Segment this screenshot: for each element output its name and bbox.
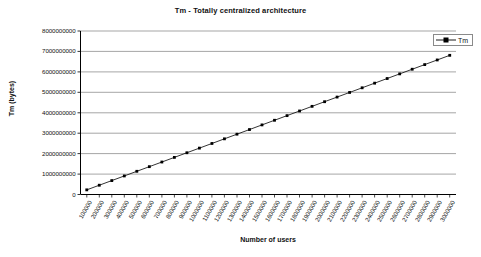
legend-line-marker-icon [436, 36, 456, 44]
data-point-marker [173, 156, 176, 159]
y-tick-label: 2000000000 [0, 150, 76, 157]
data-point-marker [286, 114, 289, 117]
y-tick-label: 1000000000 [0, 170, 76, 177]
y-tick-label: 0 [0, 191, 76, 198]
data-point-marker [373, 82, 376, 85]
data-point-marker [236, 133, 239, 136]
gridlines [81, 31, 457, 174]
chart-legend[interactable]: Tm [433, 34, 473, 46]
data-point-marker [386, 77, 389, 80]
data-point-marker [261, 124, 264, 127]
data-point-marker [198, 147, 201, 150]
data-point-marker [336, 96, 339, 99]
y-tick-label: 7000000000 [0, 47, 76, 54]
x-axis-title: Number of users [80, 236, 456, 243]
data-point-marker [436, 59, 439, 62]
data-point-marker [85, 188, 88, 191]
data-point-marker [135, 170, 138, 173]
data-point-marker [298, 110, 301, 113]
data-point-marker [398, 72, 401, 75]
series-line-tm [87, 55, 450, 190]
data-point-marker [273, 119, 276, 122]
y-tick-label: 8000000000 [0, 27, 76, 34]
data-point-marker [211, 142, 214, 145]
data-point-marker [110, 179, 113, 182]
data-point-marker [311, 105, 314, 108]
y-tick-label: 4000000000 [0, 109, 76, 116]
chart-container: Tm - Totally centralized architecture Tm… [0, 0, 481, 257]
y-tick-label: 5000000000 [0, 88, 76, 95]
data-point-marker [223, 137, 226, 140]
legend-label-tm: Tm [458, 37, 468, 44]
data-point-marker [423, 63, 426, 66]
data-point-marker [411, 68, 414, 71]
y-tick-label: 3000000000 [0, 129, 76, 136]
data-point-marker [123, 175, 126, 178]
y-tick-label: 6000000000 [0, 68, 76, 75]
data-point-marker [361, 86, 364, 89]
data-point-marker [98, 184, 101, 187]
data-point-marker [348, 91, 351, 94]
data-point-marker [185, 151, 188, 154]
data-point-marker [148, 165, 151, 168]
data-point-marker [160, 161, 163, 164]
data-point-marker [248, 128, 251, 131]
data-point-marker [448, 54, 451, 57]
data-point-marker [323, 100, 326, 103]
